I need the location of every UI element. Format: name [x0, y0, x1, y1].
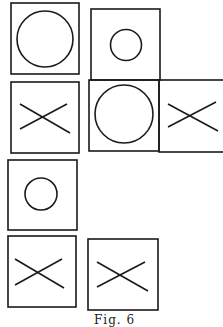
box-e-cross	[159, 80, 223, 152]
cross-icon	[168, 102, 218, 131]
box-f-small-circle	[8, 160, 77, 230]
cross-icon	[97, 262, 148, 291]
box-b-small-circle	[91, 9, 160, 80]
box-h-cross	[88, 239, 158, 310]
cross-icon	[20, 104, 70, 133]
box-c-cross	[11, 82, 79, 153]
large-circle-icon	[17, 11, 73, 67]
box-a-large-circle	[11, 3, 79, 74]
figure-caption: Fig. 6	[94, 313, 144, 327]
box-d-large-circle	[89, 80, 159, 151]
cross-icon	[15, 259, 64, 288]
box-g-cross	[8, 236, 76, 307]
large-circle-icon	[95, 85, 153, 143]
small-circle-icon	[25, 178, 57, 210]
small-circle-icon	[111, 30, 142, 61]
